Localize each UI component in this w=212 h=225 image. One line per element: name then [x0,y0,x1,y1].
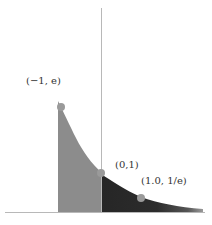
point-0-1 [97,169,105,177]
point-1-inv-e [137,194,145,202]
label-1-inv-e: (1.0, 1/e) [141,176,187,186]
label-0-1: (0,1) [115,160,139,170]
label-neg1-e: (−1, e) [26,76,61,86]
point-neg1-e [57,103,65,111]
left-shaded-region [58,101,101,212]
exponential-decay-diagram: (−1, e) (0,1) (1.0, 1/e) [0,0,212,225]
diagram-canvas [0,0,212,225]
